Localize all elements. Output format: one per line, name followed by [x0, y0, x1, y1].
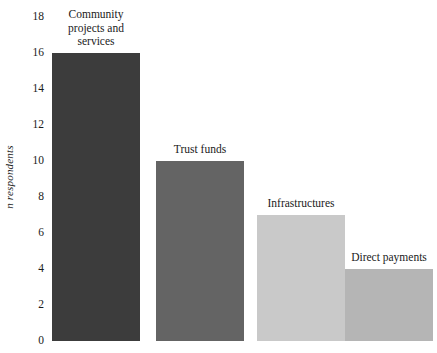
y-tick-6: 6 [38, 227, 44, 239]
bar[interactable] [345, 269, 433, 341]
y-axis-label: n respondents [0, 0, 18, 353]
y-axis-label-text: n respondents [3, 145, 15, 209]
y-tick-8: 8 [38, 191, 44, 203]
y-axis-tick-labels: 024681012141618 [18, 0, 48, 353]
bar-group: Infrastructures [257, 0, 345, 341]
bar-label: Infrastructures [246, 197, 356, 211]
y-tick-10: 10 [33, 155, 45, 167]
bar-group: Community projects and services [52, 0, 140, 341]
bar[interactable] [156, 161, 244, 341]
bar-label: Direct payments [329, 251, 437, 265]
y-tick-4: 4 [38, 263, 44, 275]
bar-group: Direct payments [345, 0, 433, 341]
y-tick-12: 12 [33, 119, 45, 131]
bar[interactable] [52, 53, 140, 341]
bar-group: Trust funds [156, 0, 244, 341]
bar-label: Trust funds [148, 143, 252, 157]
y-tick-2: 2 [38, 299, 44, 311]
y-tick-0: 0 [38, 335, 44, 347]
plot-area: Community projects and servicesTrust fun… [52, 0, 422, 353]
y-tick-14: 14 [33, 83, 45, 95]
bar[interactable] [257, 215, 345, 341]
y-tick-18: 18 [33, 11, 45, 23]
bar-label: Community projects and services [44, 8, 148, 49]
y-tick-16: 16 [33, 47, 45, 59]
